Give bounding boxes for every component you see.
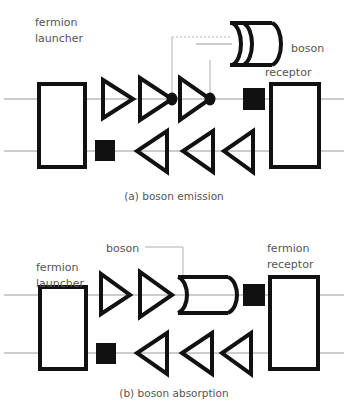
panel-b-boson-label: boson <box>106 242 139 255</box>
panel-b-launcher-label-line1: fermion <box>36 261 78 274</box>
panel-a-boson-arc-2 <box>243 23 252 65</box>
panel-b-receptor-label-line1: fermion <box>267 242 309 255</box>
panel-a-launcher-box <box>39 84 85 167</box>
physics-feynman-figure: fermion launcher boson receptor (a) boso… <box>0 0 348 410</box>
panel-a-launcher-label-line1: fermion <box>35 16 77 29</box>
panel-a-boson-symbol <box>196 23 281 65</box>
panel-a-receptor-label: receptor <box>265 66 312 79</box>
panel-a-receptor-box <box>271 84 319 167</box>
panel-b-launcher-box <box>40 287 86 369</box>
panel-b-boson-leader <box>145 247 183 277</box>
panel-a-bottom-square <box>95 140 115 161</box>
panel-a: fermion launcher boson receptor (a) boso… <box>4 16 344 202</box>
panel-a-boson-arc-1 <box>232 23 241 65</box>
panel-b-bottom-square <box>96 343 116 364</box>
panel-b-receptor-box <box>270 277 318 369</box>
panel-b-launcher-label-line2: launcher <box>36 277 85 290</box>
panel-a-caption: (a) boson emission <box>124 190 223 202</box>
panel-b-top-square <box>243 284 265 306</box>
diagram-canvas: fermion launcher boson receptor (a) boso… <box>0 0 348 410</box>
panel-a-boson-right-cap <box>272 23 281 65</box>
panel-a-boson-label: boson <box>291 42 324 55</box>
panel-b-receptor-label-line2: receptor <box>267 258 314 271</box>
panel-a-vertex-dot-1 <box>167 93 178 106</box>
panel-b-top-arrow-1 <box>101 274 130 314</box>
panel-a-vertex-dot-2 <box>205 93 216 106</box>
panel-b: fermion launcher boson fermion receptor … <box>4 242 344 399</box>
panel-a-launcher-label-line2: launcher <box>35 32 84 45</box>
panel-a-top-square <box>243 88 265 110</box>
panel-b-caption: (b) boson absorption <box>119 387 228 399</box>
